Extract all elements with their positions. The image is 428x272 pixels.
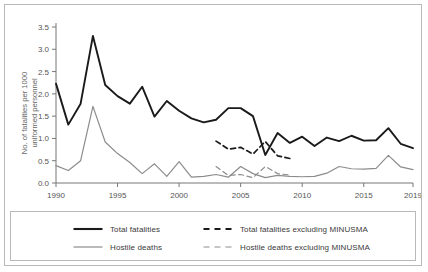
legend-swatch-solid-gray [73, 242, 103, 252]
legend-swatch-solid-black [73, 224, 103, 234]
y-tick-label: 1.0 [38, 134, 50, 143]
y-tick-label: 0.5 [38, 157, 50, 166]
legend-item-hostile-deaths-excluding-minusma[interactable]: Hostile deaths excluding MINUSMA [203, 239, 370, 255]
data-series-group [56, 36, 413, 178]
legend-item-total-fatalities-excluding-minusma[interactable]: Total fatalities excluding MINUSMA [203, 221, 368, 237]
legend-swatch-dashed-black [203, 224, 233, 234]
series-line-total-fatalities [56, 36, 413, 155]
x-tick-label: 1990 [47, 191, 65, 200]
y-tick-label: 1.5 [38, 112, 50, 121]
x-tick-label: 2010 [293, 191, 311, 200]
legend-label-hostile-deaths-excluding-minusma: Hostile deaths excluding MINUSMA [240, 243, 370, 252]
x-tick-label: 2000 [170, 191, 188, 200]
legend-panel: Total fatalities Total fatalities exclud… [10, 211, 416, 261]
legend-label-total-fatalities-excluding-minusma: Total fatalities excluding MINUSMA [240, 225, 368, 234]
x-tick-label: 1995 [109, 191, 127, 200]
y-tick-label: 2.0 [38, 90, 50, 99]
legend-item-hostile-deaths[interactable]: Hostile deaths [73, 239, 162, 255]
axis-lines [52, 23, 413, 187]
x-tick-label: 2015 [355, 191, 373, 200]
figure-container: No. of fatalities per 1000 uniformed per… [4, 4, 422, 266]
plot-panel: No. of fatalities per 1000 uniformed per… [5, 5, 421, 209]
x-tick-label: 2019 [404, 191, 421, 200]
y-axis-tick-labels: 0.00.51.01.52.02.53.03.5 [38, 23, 50, 188]
y-axis-title: No. of fatalities per 1000 uniformed per… [20, 72, 39, 154]
legend-label-hostile-deaths: Hostile deaths [110, 243, 162, 252]
y-tick-label: 3.0 [38, 45, 50, 54]
y-tick-label: 3.5 [38, 23, 50, 32]
legend-swatch-dashed-gray [203, 242, 233, 252]
y-tick-label: 0.0 [38, 179, 50, 188]
line-chart: No. of fatalities per 1000 uniformed per… [5, 5, 421, 209]
y-axis-title-line1: No. of fatalities per 1000 [20, 72, 29, 154]
legend-item-total-fatalities[interactable]: Total fatalities [73, 221, 160, 237]
x-tick-label: 2005 [232, 191, 250, 200]
series-line-total-fatalities-excluding-minusma [216, 141, 290, 158]
series-line-hostile-deaths [56, 106, 413, 177]
x-axis-tick-labels: 1990199520002005201020152019 [47, 191, 421, 200]
y-tick-label: 2.5 [38, 68, 50, 77]
legend-label-total-fatalities: Total fatalities [110, 225, 160, 234]
